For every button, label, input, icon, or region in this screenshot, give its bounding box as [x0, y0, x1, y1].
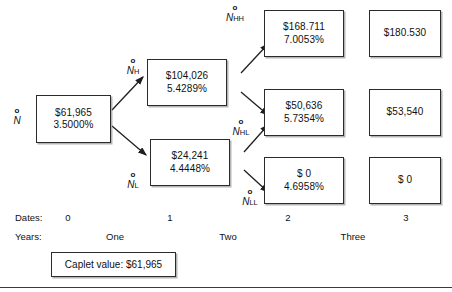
node-box-t3b: $53,540 [369, 89, 441, 136]
date-tick-2: 2 [278, 212, 298, 223]
node-value-t3c: $ 0 [398, 174, 412, 187]
node-symbol-nL: NL [122, 180, 144, 191]
node-rate-nLL: 4.6958% [284, 181, 324, 194]
node-value-t3a: $180.530 [384, 27, 427, 40]
date-tick-1: 1 [160, 212, 180, 223]
caplet-value-box: Caplet value: $61,965 [51, 252, 176, 277]
node-naught-nHH: o [222, 4, 248, 12]
node-rate-nHL: 5.7354% [284, 113, 324, 126]
node-box-nH: $104,026 5.4289% [147, 59, 227, 106]
node-symbol-n0: N [8, 116, 26, 127]
node-label-nH: o NH [122, 57, 144, 77]
year-span-three: Three [330, 231, 376, 242]
node-label-nHH: o NHH [222, 4, 248, 24]
node-symbol-nHH: NHH [222, 13, 248, 24]
node-value-t3b: $53,540 [387, 106, 424, 119]
node-box-n0: $61,965 3.5000% [36, 95, 111, 143]
node-naught-n0: o [8, 107, 26, 115]
node-value-nHH: $168.711 [283, 21, 325, 34]
node-naught-nLL: o [237, 188, 263, 196]
node-value-nH: $104,026 [166, 70, 209, 83]
node-label-nL: o NL [122, 171, 144, 191]
binomial-tree-figure: o N $61,965 3.5000% o NH $104,026 5.4289… [0, 0, 452, 292]
node-value-nHL: $50,636 [286, 100, 323, 113]
node-label-nHL: o NHL [228, 118, 254, 138]
year-span-one: One [95, 231, 135, 242]
dates-row-label: Dates: [15, 212, 42, 223]
node-rate-n0: 3.5000% [53, 119, 93, 132]
node-rate-nL: 4.4448% [170, 163, 210, 176]
node-symbol-nHL: NHL [228, 127, 254, 138]
node-value-nL: $24,241 [172, 150, 209, 163]
node-naught-nH: o [122, 57, 144, 65]
node-box-nHH: $168.711 7.0053% [264, 10, 344, 57]
node-box-t3c: $ 0 [369, 157, 441, 204]
node-symbol-nH: NH [122, 66, 144, 77]
node-rate-nHH: 7.0053% [284, 34, 324, 47]
year-span-two: Two [208, 231, 248, 242]
node-label-nLL: o NLL [237, 188, 263, 208]
node-label-n0: o N [8, 107, 26, 127]
node-box-nLL: $ 0 4.6958% [264, 157, 344, 204]
node-value-n0: $61,965 [55, 107, 92, 120]
caplet-value-text: Caplet value: $61,965 [65, 259, 162, 270]
years-row-label: Years: [15, 231, 42, 242]
node-box-t3a: $180.530 [369, 10, 441, 57]
node-rate-nH: 5.4289% [167, 83, 207, 96]
node-symbol-nLL: NLL [237, 197, 263, 208]
node-box-nL: $24,241 4.4448% [150, 139, 230, 186]
date-tick-3: 3 [396, 212, 416, 223]
node-naught-nHL: o [228, 118, 254, 126]
bottom-divider [0, 287, 452, 288]
date-tick-0: 0 [58, 212, 78, 223]
node-naught-nL: o [122, 171, 144, 179]
node-value-nLL: $ 0 [297, 168, 311, 181]
node-box-nHL: $50,636 5.7354% [264, 89, 344, 136]
